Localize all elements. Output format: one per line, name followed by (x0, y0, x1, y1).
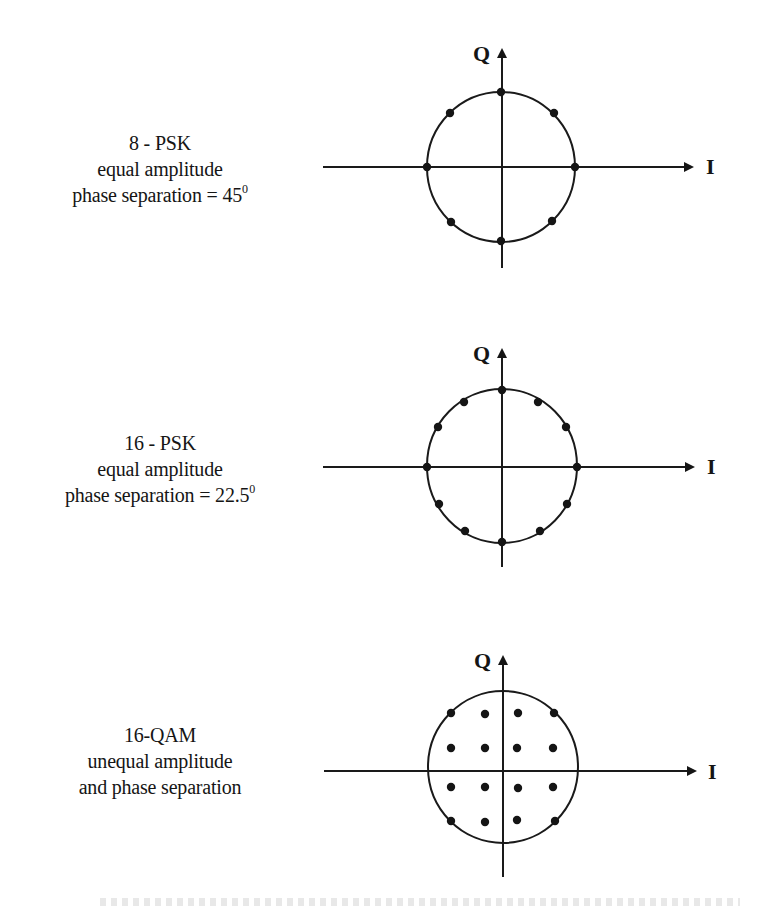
8psk-constellation (323, 50, 692, 268)
q-axis-label: Q (474, 648, 491, 673)
16qam-constellation (324, 657, 695, 877)
q-axis-label: Q (473, 341, 490, 366)
constellation-diagrams: Q I Q I Q I (0, 0, 766, 906)
cropped-caption-fragment (100, 898, 740, 906)
q-axis-label: Q (473, 41, 490, 66)
16psk-constellation (323, 350, 693, 567)
i-axis-label: I (706, 154, 715, 179)
i-axis-label: I (707, 454, 716, 479)
i-axis-label: I (708, 759, 717, 784)
